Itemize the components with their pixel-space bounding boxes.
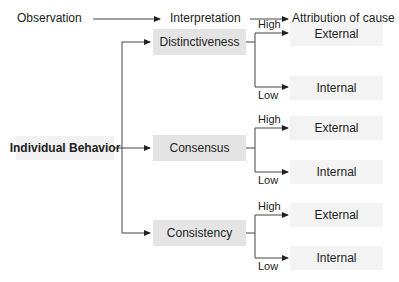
label-high: High xyxy=(258,113,281,125)
factor-label: Consensus xyxy=(169,141,229,155)
root-label: Individual Behavior xyxy=(10,141,121,155)
header-observation: Observation xyxy=(17,11,82,25)
factor-label: Distinctiveness xyxy=(159,35,239,49)
result-internal: Internal xyxy=(290,160,383,184)
label-low: Low xyxy=(258,174,278,186)
result-label: External xyxy=(314,121,358,135)
result-label: Internal xyxy=(316,165,356,179)
label-low: Low xyxy=(258,89,278,101)
label-high: High xyxy=(258,18,281,30)
header-interpretation: Interpretation xyxy=(170,11,241,25)
result-label: External xyxy=(314,27,358,41)
result-internal: Internal xyxy=(290,76,383,100)
root-individual-behavior: Individual Behavior xyxy=(16,136,114,160)
factor-label: Consistency xyxy=(167,226,232,240)
result-label: Internal xyxy=(316,251,356,265)
result-external: External xyxy=(290,22,383,46)
label-low: Low xyxy=(258,260,278,272)
result-internal: Internal xyxy=(290,246,383,270)
factor-consistency: Consistency xyxy=(153,220,246,246)
result-label: External xyxy=(314,208,358,222)
result-external: External xyxy=(290,203,383,227)
label-high: High xyxy=(258,200,281,212)
factor-consensus: Consensus xyxy=(153,135,246,161)
factor-distinctiveness: Distinctiveness xyxy=(153,29,246,55)
result-external: External xyxy=(290,116,383,140)
result-label: Internal xyxy=(316,81,356,95)
